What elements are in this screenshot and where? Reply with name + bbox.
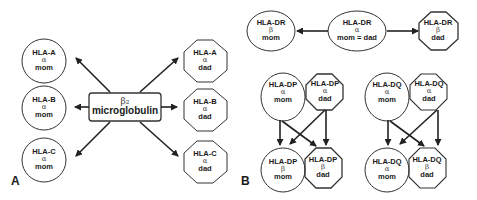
arrow-dq-dad-to-mom <box>400 110 437 144</box>
node-hla-dq-alpha-mom: HLA-DQ α mom <box>372 81 401 104</box>
node-hla-dr-alpha-center: HLA-DR α mom = dad <box>337 19 377 42</box>
panel-letter-b: B <box>241 174 250 188</box>
node-parent: mom <box>32 164 55 172</box>
node-parent: dad <box>311 96 339 104</box>
panel-letter-a: A <box>11 174 20 188</box>
arrow-to-hla-a-mom <box>76 58 110 92</box>
node-parent: dad <box>193 166 216 174</box>
node-parent: mom <box>372 174 401 182</box>
node-hla-dq-beta-dad: HLA-DQ β dad <box>412 156 441 179</box>
node-parent: mom = dad <box>337 35 377 43</box>
node-parent: dad <box>309 172 337 180</box>
arrow-to-hla-c-dad <box>140 122 178 156</box>
arrow-dq-mom-to-dad <box>390 121 424 146</box>
node-hla-c-mom: HLA-C α mom <box>32 148 55 171</box>
node-parent: mom <box>269 174 297 182</box>
node-hla-dq-alpha-mom-bottom: HLA-DQ α mom <box>372 158 401 181</box>
node-parent: dad <box>424 35 453 43</box>
arrow-to-hla-c-mom <box>76 122 110 156</box>
arrow-to-hla-a-dad <box>140 58 178 92</box>
node-hla-dp-alpha-mom: HLA-DP α mom <box>269 81 297 104</box>
node-hla-b-mom: HLA-B α mom <box>32 96 55 119</box>
node-parent: mom <box>372 97 401 105</box>
node-hla-c-dad: HLA-C α dad <box>193 150 216 173</box>
node-hla-dp-alpha-dad: HLA-DP α dad <box>311 80 339 103</box>
diagram-shapes <box>0 0 477 200</box>
node-hla-dr-beta-mom: HLA-DR β mom <box>257 19 286 42</box>
node-hla-a-mom: HLA-A α mom <box>32 49 55 72</box>
node-hla-b-dad: HLA-B α dad <box>193 98 216 121</box>
node-hla-a-dad: HLA-A α dad <box>193 49 216 72</box>
node-parent: mom <box>257 35 286 43</box>
b2-label: microglobulin <box>92 106 158 117</box>
node-hla-dp-beta-dad: HLA-DP β dad <box>309 156 337 179</box>
node-parent: mom <box>32 112 55 120</box>
node-hla-dq-alpha-dad: HLA-DQ α dad <box>414 80 443 103</box>
node-hla-dr-beta-dad: HLA-DR β dad <box>424 19 453 42</box>
node-parent: dad <box>412 172 441 180</box>
node-parent: dad <box>193 114 216 122</box>
node-parent: mom <box>269 97 297 105</box>
node-hla-dp-beta-mom: HLA-DP β mom <box>269 158 297 181</box>
node-parent: dad <box>193 65 216 73</box>
b2-microglobulin-label: β₂ microglobulin <box>92 97 158 117</box>
node-parent: mom <box>32 65 55 73</box>
node-parent: dad <box>414 96 443 104</box>
